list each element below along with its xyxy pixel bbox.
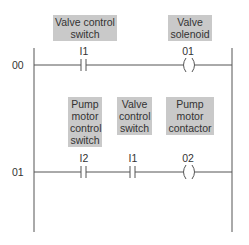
label-line: Pump (70, 98, 100, 110)
rung-number-01: 01 (12, 166, 24, 178)
label-valve-control-switch-2: Valve control switch (117, 97, 152, 135)
address-02: 02 (178, 152, 198, 164)
address-i1-rung1: I1 (123, 152, 143, 164)
label-pump-motor-contactor: Pump motor contactor (166, 97, 214, 135)
coil-01-right (192, 58, 195, 72)
label-line: switch (55, 28, 115, 40)
label-line: motor (70, 110, 100, 122)
label-line: control (119, 110, 150, 122)
address-01: 01 (178, 45, 198, 57)
label-line: switch (119, 122, 150, 134)
label-valve-control-switch: Valve control switch (53, 15, 117, 41)
address-i1: I1 (74, 45, 94, 57)
rung-number-00: 00 (12, 59, 24, 71)
label-valve-solenoid: Valve solenoid (168, 15, 212, 41)
label-line: motor (168, 110, 212, 122)
label-line: Pump (168, 98, 212, 110)
label-line: Valve (119, 98, 150, 110)
label-line: solenoid (170, 28, 210, 40)
label-line: switch (70, 134, 100, 146)
label-line: contactor (168, 122, 212, 134)
address-i2: I2 (74, 152, 94, 164)
label-line: Valve control (55, 16, 115, 28)
coil-01-left (184, 58, 187, 72)
label-line: control (70, 122, 100, 134)
label-pump-motor-control-switch: Pump motor control switch (68, 97, 102, 147)
label-line: Valve (170, 16, 210, 28)
